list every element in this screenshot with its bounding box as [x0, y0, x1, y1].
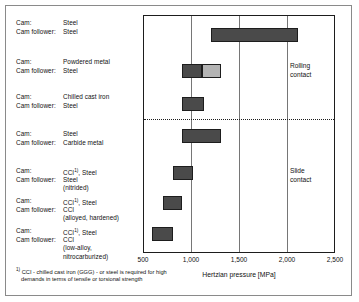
- xtick-500: 500: [126, 256, 160, 263]
- bar-steel-carbide: [182, 129, 221, 143]
- region-label-rolling-line2: contact: [290, 70, 311, 79]
- gridline-2000: [287, 16, 288, 252]
- region-label-slide-line1: Slide: [290, 166, 311, 175]
- cam-follower-material: Steel: [63, 28, 78, 37]
- material-row-1-cam: Cam: Steel: [16, 19, 142, 28]
- cam-label: Cam:: [16, 93, 31, 102]
- material-row-5: Cam: CCI1), Steel Cam follower: Steel (n…: [16, 167, 142, 193]
- cam-follower-qualifier: (alloyed, hardened): [63, 214, 119, 223]
- region-label-rolling: Rolling contact: [290, 61, 311, 79]
- material-row-7-extra-2: nitrocarburized): [16, 253, 142, 262]
- cam-follower-label: Cam follower:: [16, 102, 56, 111]
- hertzian-pressure-figure: Cam: Steel Cam follower: Steel Cam: Powd…: [0, 0, 359, 302]
- cam-follower-qualifier: (nitrided): [63, 184, 89, 193]
- cam-follower-material: CCI: [63, 206, 74, 215]
- material-row-4-follower: Cam follower: Carbide metal: [16, 139, 142, 148]
- cam-label: Cam:: [16, 167, 31, 176]
- material-row-6-cam: Cam: CCI1), Steel: [16, 197, 142, 206]
- cam-material: Steel: [63, 19, 78, 28]
- cam-label: Cam:: [16, 19, 31, 28]
- plot-area: Rolling contact Slide contact: [143, 15, 335, 253]
- cam-follower-label: Cam follower:: [16, 176, 56, 185]
- region-label-slide: Slide contact: [290, 166, 311, 184]
- material-row-5-cam: Cam: CCI1), Steel: [16, 167, 142, 176]
- material-row-3: Cam: Chilled cast iron Cam follower: Ste…: [16, 93, 142, 110]
- bar-cci-cci-low-alloy-nitrocarburized: [152, 227, 173, 241]
- cam-material: Chilled cast iron: [63, 93, 109, 102]
- footnote: 1) CCI - chilled cast iron (GGG) - or st…: [16, 266, 226, 284]
- footnote-line-1: 1) CCI - chilled cast iron (GGG) - or st…: [16, 266, 226, 276]
- cam-follower-material: Steel: [63, 102, 78, 111]
- material-row-1: Cam: Steel Cam follower: Steel: [16, 19, 142, 36]
- material-row-4-cam: Cam: Steel: [16, 130, 142, 139]
- cam-follower-label: Cam follower:: [16, 139, 56, 148]
- cam-follower-qualifier: (low-alloy,: [63, 244, 92, 253]
- footnote-line-2: demands in terms of tensile or torsional…: [16, 276, 226, 283]
- bar-powdered-steel-dark: [182, 64, 202, 78]
- material-pairings-legend: Cam: Steel Cam follower: Steel Cam: Powd…: [16, 14, 142, 254]
- cam-follower-label: Cam follower:: [16, 28, 56, 37]
- material-row-7-cam: Cam: CCI1), Steel: [16, 227, 142, 236]
- bar-chilled-cast-iron-steel: [182, 97, 204, 111]
- footnote-text-1: CCI - chilled cast iron (GGG) - or steel…: [20, 269, 167, 275]
- xtick-1500: 1,500: [222, 256, 256, 263]
- cam-label: Cam:: [16, 130, 31, 139]
- material-row-5-follower: Cam follower: Steel: [16, 176, 142, 185]
- region-label-rolling-line1: Rolling: [290, 61, 311, 70]
- cam-follower-material: CCI: [63, 236, 74, 245]
- cam-material: Steel: [63, 130, 78, 139]
- xtick-2500: 2,500: [318, 256, 352, 263]
- rolling-slide-divider: [144, 119, 334, 120]
- material-row-7-follower: Cam follower: CCI: [16, 236, 142, 245]
- material-row-2-cam: Cam: Powdered metal: [16, 58, 142, 67]
- material-row-1-follower: Cam follower: Steel: [16, 28, 142, 37]
- cam-follower-material: Steel: [63, 176, 78, 185]
- material-row-2: Cam: Powdered metal Cam follower: Steel: [16, 58, 142, 75]
- material-row-4: Cam: Steel Cam follower: Carbide metal: [16, 130, 142, 147]
- material-row-6-extra: (alloyed, hardened): [16, 214, 142, 223]
- material-row-6-follower: Cam follower: CCI: [16, 206, 142, 215]
- cam-follower-material: Carbide metal: [63, 139, 103, 148]
- bar-steel-steel: [211, 28, 298, 42]
- cam-follower-qualifier: nitrocarburized): [63, 253, 108, 262]
- cam-label: Cam:: [16, 227, 31, 236]
- cam-label: Cam:: [16, 197, 31, 206]
- material-row-7-extra-1: (low-alloy,: [16, 244, 142, 253]
- region-label-slide-line2: contact: [290, 175, 311, 184]
- xtick-1000: 1,000: [174, 256, 208, 263]
- material-row-6: Cam: CCI1), Steel Cam follower: CCI (all…: [16, 197, 142, 223]
- cam-material: Powdered metal: [63, 58, 110, 67]
- cam-follower-label: Cam follower:: [16, 206, 56, 215]
- bar-powdered-steel-light: [202, 64, 221, 78]
- gridline-1500: [239, 16, 240, 252]
- cam-label: Cam:: [16, 58, 31, 67]
- material-row-3-follower: Cam follower: Steel: [16, 102, 142, 111]
- cam-follower-label: Cam follower:: [16, 236, 56, 245]
- material-row-5-extra: (nitrided): [16, 184, 142, 193]
- cam-follower-material: Steel: [63, 67, 78, 76]
- xtick-2000: 2,000: [270, 256, 304, 263]
- material-row-2-follower: Cam follower: Steel: [16, 67, 142, 76]
- bar-cci-steel-nitrided: [173, 166, 193, 180]
- material-row-7: Cam: CCI1), Steel Cam follower: CCI (low…: [16, 227, 142, 261]
- material-row-3-cam: Cam: Chilled cast iron: [16, 93, 142, 102]
- plot-inner: Rolling contact Slide contact: [144, 16, 334, 252]
- cam-follower-label: Cam follower:: [16, 67, 56, 76]
- bar-cci-cci-alloyed-hardened: [163, 196, 182, 210]
